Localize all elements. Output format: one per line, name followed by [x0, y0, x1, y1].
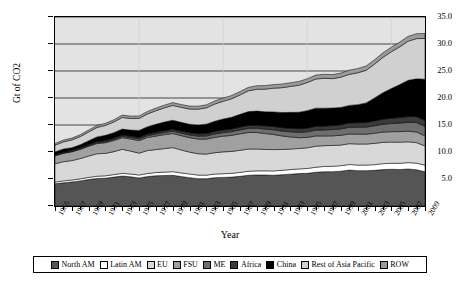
- legend-swatch-icon: [147, 261, 155, 269]
- legend-item[interactable]: FSU: [173, 260, 198, 269]
- legend-swatch-icon: [51, 261, 59, 269]
- y-axis-tick-mark: [48, 124, 53, 125]
- x-axis-tick-mark: [63, 207, 64, 210]
- y-axis-tick-mark: [48, 16, 53, 17]
- x-axis-tick-mark: [97, 207, 98, 210]
- chart-screenshot: Gt of CO2 196519671969197119731975197719…: [0, 0, 460, 287]
- legend-label: Latin AM: [110, 260, 141, 269]
- y-axis-tick-mark: [48, 70, 53, 71]
- x-axis-tick-mark: [299, 207, 300, 210]
- legend-item[interactable]: Rest of Asia Pacific: [301, 260, 375, 269]
- y-axis-tick-label: 30.0: [437, 39, 452, 48]
- x-axis-tick-mark: [72, 207, 73, 211]
- x-axis-tick-mark: [333, 207, 334, 210]
- y-axis-tick-label: 10.0: [437, 147, 452, 156]
- legend-swatch-icon: [203, 261, 211, 269]
- x-axis-tick-mark: [358, 207, 359, 211]
- legend-item[interactable]: ROW: [380, 260, 409, 269]
- x-axis-tick-mark: [257, 207, 258, 211]
- y-axis-tick-label: 15.0: [437, 120, 452, 129]
- legend-item[interactable]: EU: [147, 260, 168, 269]
- plot-area: [54, 16, 426, 207]
- legend-item[interactable]: China: [266, 260, 296, 269]
- legend-swatch-icon: [380, 261, 388, 269]
- chart-legend: North AMLatin AMEUFSUMEAfricaChinaRest o…: [33, 256, 427, 273]
- legend-swatch-icon: [230, 261, 238, 269]
- y-axis-tick-mark: [48, 43, 53, 44]
- x-axis-tick-mark: [265, 207, 266, 210]
- legend-item[interactable]: Latin AM: [100, 260, 142, 269]
- x-axis-tick-mark: [274, 207, 275, 211]
- legend-item[interactable]: Africa: [230, 260, 261, 269]
- x-axis-tick-mark: [164, 207, 165, 210]
- y-axis-labels: [0, 0, 54, 191]
- x-axis-tick-mark: [181, 207, 182, 210]
- x-axis-tick-mark: [375, 207, 376, 211]
- legend-item[interactable]: ME: [203, 260, 226, 269]
- legend-label: Rest of Asia Pacific: [311, 260, 374, 269]
- y-axis-tick-label: 20.0: [437, 93, 452, 102]
- plot-frame: [54, 16, 426, 207]
- legend-swatch-icon: [301, 261, 309, 269]
- x-axis-tick-mark: [232, 207, 233, 210]
- stacked-area-chart: [55, 17, 425, 206]
- x-axis-tick-mark: [417, 207, 418, 210]
- y-axis-tick-mark: [48, 178, 53, 179]
- x-axis-tick-mark: [366, 207, 367, 210]
- x-axis-title: Year: [0, 229, 460, 240]
- x-axis-tick-mark: [198, 207, 199, 210]
- x-axis-tick-mark: [80, 207, 81, 210]
- legend-label: EU: [157, 260, 168, 269]
- x-axis-tick-label: 2009: [427, 200, 442, 217]
- legend-label: ME: [213, 260, 225, 269]
- x-axis-tick-mark: [190, 207, 191, 211]
- x-axis: 1965196719691971197319751977197919811983…: [54, 207, 426, 247]
- x-axis-tick-mark: [173, 207, 174, 211]
- y-axis-tick-label: 5.0: [441, 174, 452, 183]
- x-axis-tick-mark: [114, 207, 115, 210]
- y-axis-tick-mark: [48, 97, 53, 98]
- x-axis-tick-mark: [383, 207, 384, 210]
- legend-label: ROW: [390, 260, 409, 269]
- legend-swatch-icon: [173, 261, 181, 269]
- x-axis-tick-mark: [316, 207, 317, 210]
- x-axis-tick-mark: [156, 207, 157, 211]
- y-axis-tick-label: 35.0: [437, 12, 452, 21]
- legend-swatch-icon: [266, 261, 274, 269]
- legend-label: China: [277, 260, 296, 269]
- x-axis-tick-mark: [349, 207, 350, 210]
- x-axis-tick-mark: [341, 207, 342, 211]
- x-axis-tick-mark: [131, 207, 132, 210]
- legend-item[interactable]: North AM: [51, 260, 95, 269]
- x-axis-tick-mark: [282, 207, 283, 210]
- x-axis-tick-mark: [215, 207, 216, 210]
- y-axis-tick-label: 25.0: [437, 66, 452, 75]
- legend-label: Africa: [241, 260, 261, 269]
- legend-label: North AM: [62, 260, 95, 269]
- x-axis-tick-mark: [148, 207, 149, 210]
- x-axis-tick-mark: [89, 207, 90, 211]
- y-axis-tick-mark: [48, 205, 53, 206]
- x-axis-tick-mark: [400, 207, 401, 210]
- legend-swatch-icon: [100, 261, 108, 269]
- x-axis-tick-mark: [248, 207, 249, 210]
- legend-label: FSU: [183, 260, 198, 269]
- y-axis-tick-mark: [48, 151, 53, 152]
